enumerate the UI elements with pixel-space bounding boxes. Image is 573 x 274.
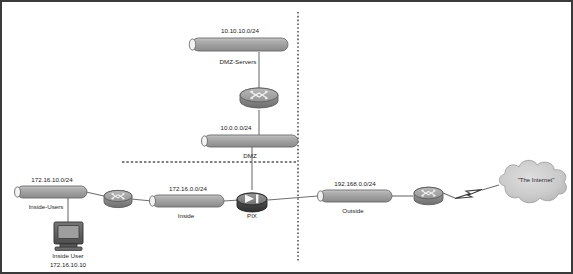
network-dmz[interactable]: 10.0.0.0/24 DMZ [202, 124, 299, 159]
network-subnet-label: 172.16.0.0/24 [169, 185, 207, 192]
network-bar-icon [202, 135, 299, 147]
network-bar-icon [189, 38, 288, 51]
router-icon [240, 88, 278, 108]
router-icon [414, 187, 443, 205]
network-subnet-label: 192.168.0.0/24 [334, 180, 376, 187]
cloud-label: "The Internet" [518, 177, 555, 183]
network-dmz-servers[interactable]: 10.10.10.0/24 DMZ-Servers [189, 27, 288, 65]
link-wan-to-cloud [482, 185, 499, 190]
inside-workstation[interactable]: Inside User 172.16.10.10 [50, 222, 87, 268]
network-name-label: DMZ [243, 152, 257, 159]
network-bar-icon [15, 186, 88, 198]
router-dmz[interactable] [240, 88, 278, 108]
link-router-to-wan [443, 193, 455, 198]
device-name-label: PIX [247, 212, 257, 219]
link-router-to-inside [131, 199, 152, 201]
wan-link-lightning-icon [455, 190, 482, 199]
router-inside[interactable] [104, 190, 132, 207]
pix-firewall[interactable]: PIX [237, 193, 267, 219]
network-inside[interactable]: 172.16.0.0/24 Inside [150, 185, 225, 219]
network-name-label: Inside-Users [29, 203, 64, 210]
device-name-label: Inside User [52, 252, 83, 259]
network-subnet-label: 172.16.10.0/24 [31, 176, 73, 183]
workstation-icon [54, 222, 83, 250]
network-name-label: Outside [342, 207, 364, 214]
link-pix-to-outside [268, 196, 318, 200]
link-insideusers-to-router [86, 192, 104, 196]
network-inside-users[interactable]: 172.16.10.0/24 Inside-Users [15, 176, 88, 210]
network-bar-icon [150, 195, 225, 207]
network-name-label: Inside [178, 212, 195, 219]
network-subnet-label: 10.0.0.0/24 [221, 124, 253, 131]
network-topology-svg: 10.10.10.0/24 DMZ-Servers [0, 0, 573, 274]
internet-cloud[interactable]: "The Internet" [499, 160, 566, 202]
network-bar-icon [318, 190, 393, 202]
network-subnet-label: 10.10.10.0/24 [221, 27, 259, 34]
network-diagram-canvas: 10.10.10.0/24 DMZ-Servers [0, 0, 573, 274]
network-outside[interactable]: 192.168.0.0/24 Outside [318, 180, 393, 214]
router-outside[interactable] [414, 187, 443, 205]
router-icon [104, 190, 132, 207]
network-name-label: DMZ-Servers [220, 58, 257, 65]
firewall-icon [237, 193, 267, 212]
device-address-label: 172.16.10.10 [50, 261, 87, 268]
